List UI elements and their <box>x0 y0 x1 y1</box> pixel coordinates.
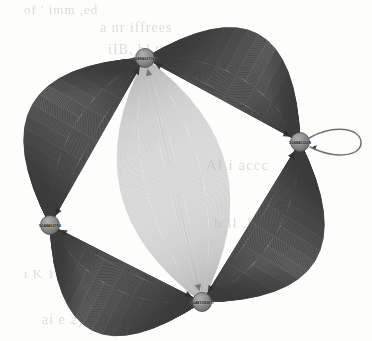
graph-node-label: 50484027020 <box>133 56 158 61</box>
graph-node-label: 5048158387I <box>191 300 214 305</box>
figure-canvas: of ' imm ,ed a nr iffrees iIB, bl tmi i … <box>0 0 372 341</box>
graph-node-label: 5048403008 <box>289 140 312 145</box>
graph-node-label: 5048402783 <box>39 223 62 228</box>
network-graph: 5048402702050484030085048158387I50484027… <box>0 0 372 341</box>
self-loop-right-node <box>309 129 361 155</box>
